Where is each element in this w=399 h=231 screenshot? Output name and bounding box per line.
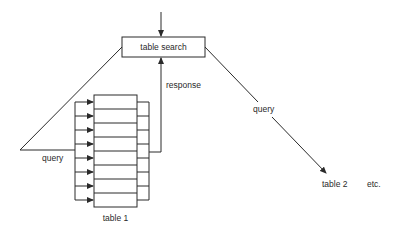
etc-label: etc. (367, 179, 381, 189)
table1-label: table 1 (103, 213, 129, 223)
response-path: response (149, 58, 201, 152)
query-path-right: query (205, 47, 326, 173)
table-search-box: table search (122, 37, 205, 57)
response-label: response (166, 80, 201, 90)
query-right-label: query (253, 104, 275, 114)
table-search-diagram: table search query table 1 (0, 0, 399, 231)
query-left-label: query (42, 153, 64, 163)
table1-output-bracket (137, 102, 149, 200)
table1-input-bracket (75, 102, 93, 200)
table2-label: table 2 (322, 179, 348, 189)
table1: table 1 (94, 95, 137, 223)
table-search-label: table search (140, 42, 187, 52)
